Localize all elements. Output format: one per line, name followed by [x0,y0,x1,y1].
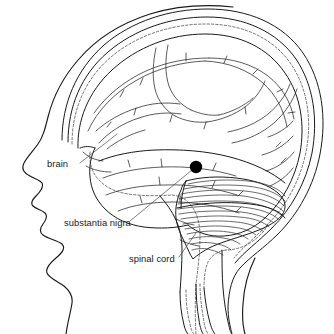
label-brain: brain [47,158,68,169]
meninges-dashed-line [72,24,309,334]
label-substantia-nigra: substantia nigra [64,217,132,228]
spinal-cord [180,250,232,334]
cerebellum [176,177,285,259]
brain-anatomy-diagram: brain substantia nigra spinal cord [0,0,334,334]
neck-outline [243,258,255,334]
label-spinal-cord: spinal cord [129,253,175,264]
diagram-canvas: brain substantia nigra spinal cord [0,0,334,334]
substantia-nigra-marker-dot [190,161,202,173]
leader-line-brain [80,134,117,163]
cerebellar-folia [177,180,285,255]
